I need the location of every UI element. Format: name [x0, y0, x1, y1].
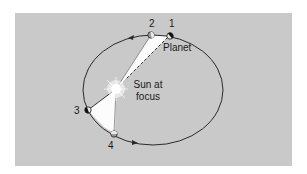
planet-icon-3 [84, 107, 91, 114]
planet-icon-4 [111, 131, 117, 137]
label-sun-line1: Sun at [126, 80, 170, 90]
orbit-arrow-bottom [132, 140, 138, 145]
label-position-1: 1 [169, 19, 175, 29]
orbit-arrow-top [128, 35, 134, 40]
label-sun-line2: focus [126, 92, 170, 102]
label-position-2: 2 [149, 19, 155, 29]
label-position-3: 3 [74, 106, 80, 116]
planet-icon-1 [167, 31, 175, 39]
planet-icon-2 [148, 31, 155, 38]
label-position-4: 4 [108, 141, 114, 151]
sun-icon [104, 77, 128, 101]
label-planet: Planet [163, 43, 191, 53]
